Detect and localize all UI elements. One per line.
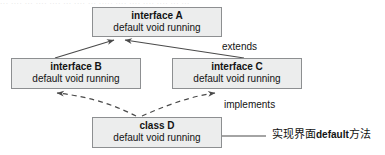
annotation-keyword: default xyxy=(316,129,349,140)
uml-box-interface-a[interactable]: interface A default void running xyxy=(92,7,222,37)
annotation-suffix: 方法 xyxy=(349,128,371,141)
uml-box-title: interface C xyxy=(211,61,263,73)
uml-box-class-d[interactable]: class D default void running xyxy=(92,117,222,148)
uml-box-member: default void running xyxy=(113,22,200,34)
cropped-text-artifact: ··· ···· ··· ···· ···· ··· ···· ··· ····… xyxy=(0,0,385,7)
uml-box-member: default void running xyxy=(32,73,119,85)
uml-box-interface-c[interactable]: interface C default void running xyxy=(172,58,302,89)
uml-box-interface-b[interactable]: interface B default void running xyxy=(11,58,141,89)
edge-d-implements-b xyxy=(57,93,136,116)
uml-box-member: default void running xyxy=(113,132,200,144)
uml-box-title: interface A xyxy=(131,10,182,22)
edge-label-implements: implements xyxy=(224,99,275,111)
edge-d-implements-c xyxy=(142,93,215,116)
edge-label-extends: extends xyxy=(222,41,257,53)
edge-b-extends-a xyxy=(55,40,114,58)
uml-box-title: class D xyxy=(139,120,174,132)
uml-box-title: interface B xyxy=(50,61,102,73)
annotation-prefix: 实现界面 xyxy=(272,128,316,141)
annotation-text: 实现界面default方法 xyxy=(272,128,371,142)
uml-box-member: default void running xyxy=(193,73,280,85)
uml-diagram-canvas: ··· ···· ··· ···· ···· ··· ···· ··· ····… xyxy=(0,0,385,155)
